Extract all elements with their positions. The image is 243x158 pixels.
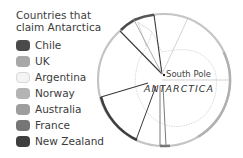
peninsula-outline xyxy=(138,22,152,46)
sector-line xyxy=(134,20,162,74)
antarctica-label: ANTARCTICA xyxy=(143,83,214,94)
chile-arc xyxy=(121,20,134,30)
australia-arc xyxy=(198,52,230,137)
uk-arc xyxy=(134,15,154,20)
sector-line xyxy=(163,86,166,146)
south-pole-label: South Pole xyxy=(166,69,211,79)
antarctica-claims-map: South Pole ANTARCTICA xyxy=(0,0,243,158)
new-zealand-arc xyxy=(101,97,137,140)
sector-line xyxy=(136,86,156,140)
south-pole-dot xyxy=(163,74,165,76)
sector-line xyxy=(162,18,188,74)
sector-line xyxy=(101,83,148,97)
sector-line xyxy=(120,31,162,74)
sector-line xyxy=(154,15,162,74)
